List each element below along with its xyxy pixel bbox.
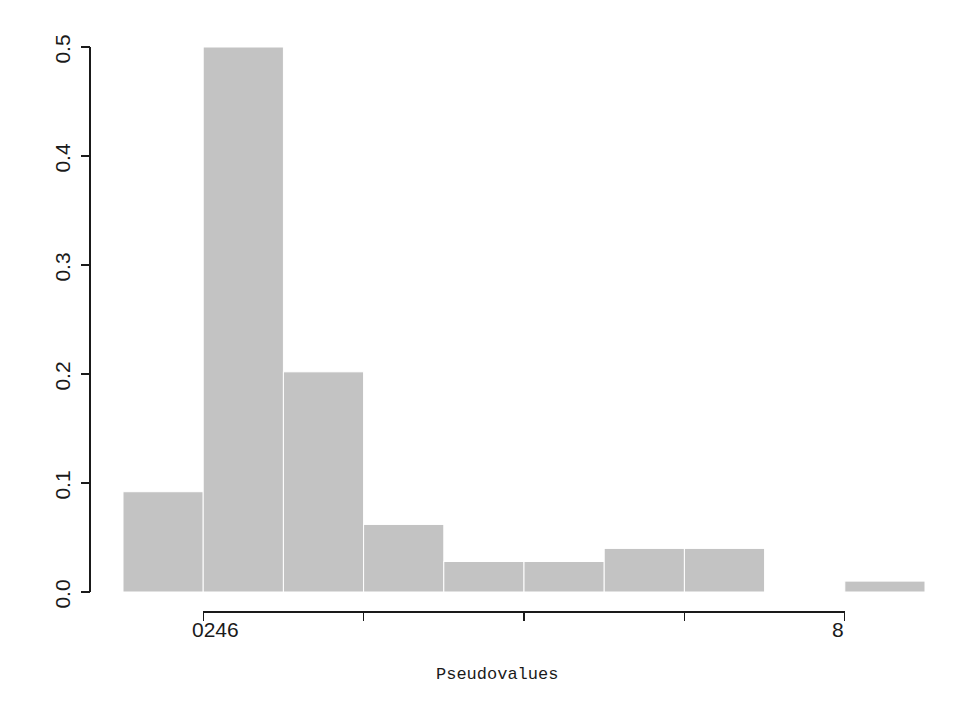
histogram-bar bbox=[845, 581, 925, 592]
ytick-label-2: 0.2 bbox=[51, 361, 75, 390]
chart-canvas bbox=[0, 0, 971, 720]
ytick-label-0: 0.0 bbox=[51, 579, 75, 608]
xtick-label-8: 8 bbox=[832, 618, 844, 642]
histogram-bar bbox=[524, 561, 604, 592]
histogram-bar bbox=[364, 524, 444, 592]
ytick-label-3: 0.3 bbox=[51, 252, 75, 281]
histogram-bar bbox=[604, 548, 684, 592]
histogram-bar bbox=[123, 492, 203, 592]
histogram-bar bbox=[444, 561, 524, 592]
histogram-bar bbox=[203, 47, 283, 592]
histogram-bar bbox=[684, 548, 764, 592]
ytick-label-4: 0.4 bbox=[51, 143, 75, 172]
x-axis-title: Pseudovalues bbox=[436, 665, 558, 684]
xtick-label-overlap: 0246 bbox=[192, 618, 239, 642]
ytick-label-1: 0.1 bbox=[51, 470, 75, 499]
histogram-bar bbox=[283, 372, 363, 592]
plot-area: 0.0 0.1 0.2 0.3 0.4 0.5 0246 8 Pseudoval… bbox=[0, 0, 971, 720]
ytick-label-5: 0.5 bbox=[51, 34, 75, 63]
histogram-figure: 0.0 0.1 0.2 0.3 0.4 0.5 0246 8 Pseudoval… bbox=[0, 0, 971, 720]
